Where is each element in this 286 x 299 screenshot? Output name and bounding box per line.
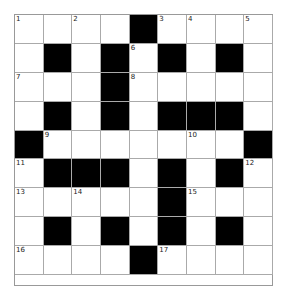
crossword-cell[interactable] bbox=[216, 246, 245, 275]
black-square bbox=[158, 102, 187, 131]
black-square bbox=[244, 131, 273, 160]
black-square bbox=[15, 131, 44, 160]
crossword-cell[interactable]: 7 bbox=[15, 73, 44, 102]
crossword-cell[interactable] bbox=[101, 131, 130, 160]
clue-number: 3 bbox=[159, 15, 163, 23]
crossword-cell[interactable]: 3 bbox=[158, 15, 187, 44]
crossword-cell[interactable]: 15 bbox=[187, 188, 216, 217]
crossword-cell[interactable] bbox=[130, 102, 159, 131]
crossword-cell[interactable] bbox=[72, 44, 101, 73]
crossword-cell[interactable]: 1 bbox=[15, 15, 44, 44]
clue-number: 8 bbox=[131, 73, 135, 81]
black-square bbox=[44, 102, 73, 131]
black-square bbox=[44, 217, 73, 246]
crossword-cell[interactable]: 8 bbox=[130, 73, 159, 102]
black-square bbox=[158, 159, 187, 188]
black-square bbox=[101, 159, 130, 188]
crossword-cell[interactable]: 5 bbox=[244, 15, 273, 44]
black-square bbox=[216, 44, 245, 73]
crossword-cell[interactable] bbox=[244, 102, 273, 131]
crossword-cell[interactable] bbox=[244, 188, 273, 217]
crossword-cell[interactable] bbox=[244, 246, 273, 275]
clue-number: 5 bbox=[245, 15, 249, 23]
clue-number: 2 bbox=[73, 15, 77, 23]
crossword-cell[interactable] bbox=[15, 217, 44, 246]
crossword-cell[interactable] bbox=[187, 44, 216, 73]
crossword-cell[interactable] bbox=[44, 15, 73, 44]
crossword-cell[interactable]: 16 bbox=[15, 246, 44, 275]
crossword-cell[interactable] bbox=[216, 131, 245, 160]
crossword-cell[interactable] bbox=[101, 15, 130, 44]
black-square bbox=[101, 73, 130, 102]
crossword-cell[interactable] bbox=[101, 246, 130, 275]
crossword-cell[interactable] bbox=[244, 217, 273, 246]
crossword-cell[interactable] bbox=[15, 102, 44, 131]
crossword-cell[interactable] bbox=[15, 44, 44, 73]
crossword-cell[interactable] bbox=[187, 73, 216, 102]
crossword-cell[interactable] bbox=[158, 131, 187, 160]
clue-number: 10 bbox=[188, 131, 197, 139]
crossword-cell[interactable] bbox=[72, 217, 101, 246]
crossword-cell[interactable] bbox=[72, 131, 101, 160]
crossword-cell[interactable] bbox=[130, 159, 159, 188]
black-square bbox=[216, 217, 245, 246]
crossword-cell[interactable] bbox=[244, 73, 273, 102]
crossword-cell[interactable]: 4 bbox=[187, 15, 216, 44]
crossword-cell[interactable]: 12 bbox=[244, 159, 273, 188]
clue-number: 6 bbox=[131, 44, 135, 52]
crossword-cell[interactable] bbox=[72, 73, 101, 102]
black-square bbox=[101, 102, 130, 131]
crossword-cell[interactable] bbox=[187, 217, 216, 246]
crossword-cell[interactable] bbox=[44, 246, 73, 275]
clue-number: 11 bbox=[16, 159, 25, 167]
clue-number: 14 bbox=[73, 188, 82, 196]
crossword-cell[interactable] bbox=[130, 188, 159, 217]
crossword-cell[interactable]: 6 bbox=[130, 44, 159, 73]
crossword-cell[interactable] bbox=[216, 188, 245, 217]
clue-number: 17 bbox=[159, 246, 168, 254]
clue-number: 9 bbox=[45, 131, 49, 139]
clue-number: 13 bbox=[16, 188, 25, 196]
clue-number: 16 bbox=[16, 246, 25, 254]
crossword-cell[interactable] bbox=[72, 246, 101, 275]
black-square bbox=[158, 217, 187, 246]
crossword-cell[interactable]: 9 bbox=[44, 131, 73, 160]
black-square bbox=[44, 44, 73, 73]
crossword-cell[interactable]: 10 bbox=[187, 131, 216, 160]
crossword-cell[interactable]: 17 bbox=[158, 246, 187, 275]
crossword-cell[interactable] bbox=[158, 73, 187, 102]
crossword-cell[interactable] bbox=[44, 188, 73, 217]
black-square bbox=[72, 159, 101, 188]
black-square bbox=[216, 159, 245, 188]
crossword-cell[interactable] bbox=[187, 159, 216, 188]
black-square bbox=[44, 159, 73, 188]
crossword-cell[interactable] bbox=[216, 15, 245, 44]
black-square bbox=[187, 102, 216, 131]
black-square bbox=[158, 44, 187, 73]
crossword-cell[interactable] bbox=[187, 246, 216, 275]
black-square bbox=[101, 217, 130, 246]
black-square bbox=[101, 44, 130, 73]
black-square bbox=[158, 188, 187, 217]
black-square bbox=[130, 15, 159, 44]
clue-number: 15 bbox=[188, 188, 197, 196]
crossword-cell[interactable] bbox=[44, 73, 73, 102]
black-square bbox=[130, 246, 159, 275]
clue-number: 1 bbox=[16, 15, 20, 23]
crossword-cell[interactable] bbox=[216, 73, 245, 102]
crossword-cell[interactable]: 13 bbox=[15, 188, 44, 217]
clue-number: 4 bbox=[188, 15, 192, 23]
crossword-cell[interactable] bbox=[130, 131, 159, 160]
crossword-cell[interactable]: 11 bbox=[15, 159, 44, 188]
clue-number: 12 bbox=[245, 159, 254, 167]
clue-number: 7 bbox=[16, 73, 20, 81]
crossword-cell[interactable] bbox=[130, 217, 159, 246]
crossword-grid: 1234567891011121314151617 bbox=[14, 14, 273, 286]
crossword-cell[interactable]: 2 bbox=[72, 15, 101, 44]
crossword-cell[interactable]: 14 bbox=[72, 188, 101, 217]
crossword-cell[interactable] bbox=[101, 188, 130, 217]
crossword-cell[interactable] bbox=[244, 44, 273, 73]
crossword-cell[interactable] bbox=[72, 102, 101, 131]
black-square bbox=[216, 102, 245, 131]
